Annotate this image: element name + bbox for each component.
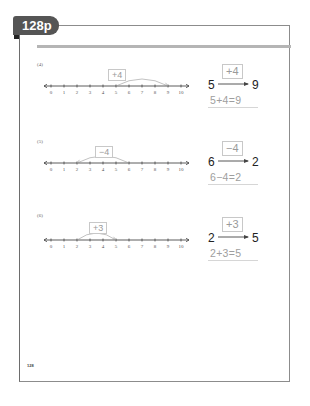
svg-text:0: 0 [50, 90, 53, 95]
svg-text:2: 2 [76, 244, 79, 249]
arc-op-box-4: +4 [108, 69, 126, 81]
svg-text:8: 8 [154, 90, 157, 95]
svg-text:4: 4 [102, 244, 105, 249]
page-tab: 128p [13, 16, 59, 35]
svg-text:6: 6 [128, 90, 131, 95]
answer-start-5: 6 [208, 155, 215, 169]
svg-text:9: 9 [167, 167, 170, 172]
answer-end-6: 5 [252, 231, 259, 245]
svg-text:4: 4 [102, 90, 105, 95]
svg-text:5: 5 [115, 90, 118, 95]
arc-op-box-6: +3 [89, 222, 107, 234]
svg-text:10: 10 [179, 244, 185, 249]
answer-end-5: 2 [252, 155, 259, 169]
equation-underline-6 [208, 260, 258, 261]
svg-text:8: 8 [154, 244, 157, 249]
answer-equation-5: 6−4=2 [210, 171, 241, 183]
svg-text:3: 3 [89, 167, 92, 172]
arc-op-box-5: −4 [95, 146, 113, 158]
number-line-4: 012345678910012345678910012345678910 [0, 0, 310, 406]
page-number: 128 [27, 363, 34, 368]
answer-op-box-6: +3 [222, 217, 243, 232]
svg-text:2: 2 [76, 90, 79, 95]
svg-text:6: 6 [128, 244, 131, 249]
problem-label-5: (5) [37, 139, 43, 144]
svg-text:1: 1 [63, 90, 66, 95]
svg-text:0: 0 [50, 167, 53, 172]
answer-start-4: 5 [208, 78, 215, 92]
svg-text:4: 4 [102, 167, 105, 172]
svg-text:10: 10 [179, 90, 185, 95]
svg-text:3: 3 [89, 90, 92, 95]
svg-text:10: 10 [179, 167, 185, 172]
svg-text:0: 0 [50, 244, 53, 249]
svg-text:3: 3 [89, 244, 92, 249]
answer-end-4: 9 [252, 78, 259, 92]
svg-text:6: 6 [128, 167, 131, 172]
equation-underline-5 [208, 184, 258, 185]
svg-text:9: 9 [167, 244, 170, 249]
svg-text:7: 7 [141, 244, 144, 249]
svg-text:8: 8 [154, 167, 157, 172]
svg-text:5: 5 [115, 244, 118, 249]
answer-start-6: 2 [208, 231, 215, 245]
tab-corner [14, 35, 19, 39]
equation-underline-4 [208, 107, 258, 108]
svg-text:7: 7 [141, 90, 144, 95]
answer-op-box-5: −4 [222, 141, 243, 156]
svg-text:9: 9 [167, 90, 170, 95]
svg-text:2: 2 [76, 167, 79, 172]
answer-equation-4: 5+4=9 [210, 94, 241, 106]
svg-text:1: 1 [63, 167, 66, 172]
answer-equation-6: 2+3=5 [210, 247, 241, 259]
svg-text:1: 1 [63, 244, 66, 249]
svg-text:7: 7 [141, 167, 144, 172]
answer-op-box-4: +4 [222, 64, 243, 79]
problem-label-6: (6) [37, 213, 43, 218]
svg-text:5: 5 [115, 167, 118, 172]
